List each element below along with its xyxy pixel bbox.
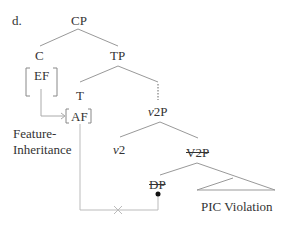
node-V2P-struck: V2P [186, 146, 209, 159]
dp-dot-icon [156, 192, 161, 197]
node-dp-struck: DP [149, 178, 166, 191]
annotation-pic-violation: PIC Violation [201, 200, 273, 213]
node-c: C [35, 49, 44, 62]
node-ef: EF [34, 69, 49, 82]
node-tp: TP [110, 49, 125, 62]
node-v2: v2 [113, 143, 125, 156]
node-af: AF [71, 110, 88, 123]
node-v2p: v2P [148, 105, 168, 118]
tree-lines [0, 0, 292, 227]
node-cp: CP [71, 14, 87, 27]
node-t: T [76, 89, 84, 102]
annotation-feature-inheritance-2: Inheritance [13, 143, 71, 156]
annotation-feature-inheritance-1: Feature- [13, 127, 56, 140]
diagram-label: d. [12, 14, 22, 27]
